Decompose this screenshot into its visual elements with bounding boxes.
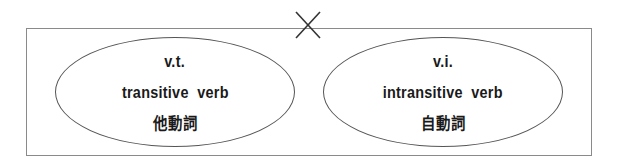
intransitive-english: intransitive verb (383, 77, 503, 108)
transitive-english: transitive verb (122, 77, 229, 108)
transitive-abbreviation: v.t. (165, 46, 186, 77)
intransitive-abbreviation: v.i. (433, 46, 453, 77)
intransitive-japanese: 自動詞 (421, 108, 465, 139)
transitive-japanese: 他動詞 (153, 108, 197, 139)
cross-icon (290, 8, 326, 42)
intransitive-verb-ellipse: v.i. intransitive verb 自動詞 (323, 37, 563, 147)
transitive-verb-ellipse: v.t. transitive verb 他動詞 (55, 37, 295, 147)
